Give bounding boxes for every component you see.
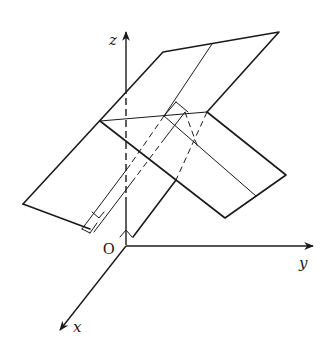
plane-upper-outline [23, 32, 279, 204]
plane-lower-dashed-a [185, 112, 198, 148]
plane-upper-foot [82, 229, 90, 233]
plane-upper-inner-line-lower [82, 165, 130, 229]
plane-lower-inner-line [164, 116, 256, 196]
z-axis-label: z [108, 31, 117, 49]
plane-upper-foot2 [90, 223, 97, 233]
plane-upper-bottom-edge [23, 204, 90, 229]
plane-upper-right-dashed [176, 112, 207, 180]
axes [60, 32, 313, 330]
x-axis [60, 246, 126, 330]
diagram-canvas: z y x O [0, 0, 328, 352]
hinge-line [100, 112, 207, 121]
plane-lower-outline [100, 112, 286, 218]
y-axis-label: y [298, 254, 308, 272]
right-angle-lower-left [92, 212, 104, 218]
plane-upper-inner-line [164, 44, 212, 116]
x-axis-label: x [73, 318, 82, 336]
plane-lower-right-mark [176, 102, 188, 112]
plane-upper-front-edge [133, 180, 176, 237]
plane-lower-right-mark2 [164, 102, 176, 116]
origin-label: O [103, 240, 115, 257]
plane-upper-inner2-dashed [135, 138, 165, 178]
plane-lower [100, 102, 286, 218]
